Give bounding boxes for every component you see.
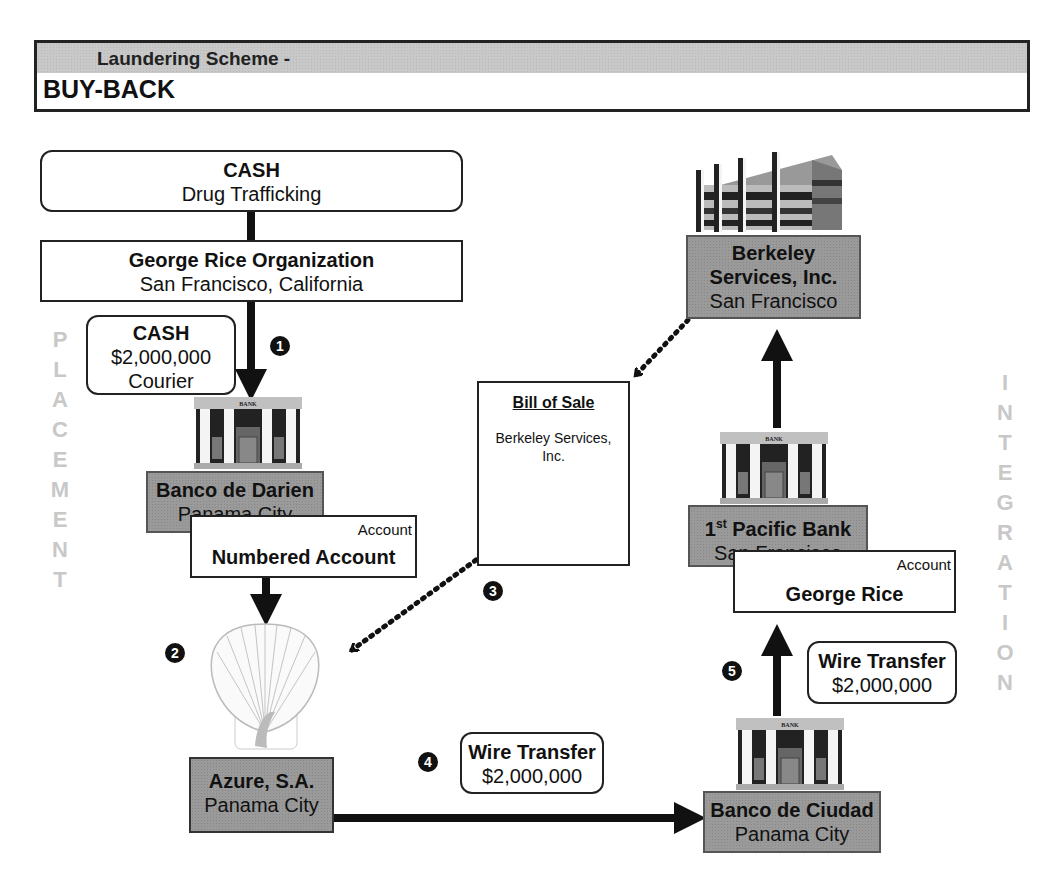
cash-courier-node: CASH $2,000,000 Courier — [86, 315, 236, 395]
step-1-marker: 1 — [270, 336, 290, 356]
svg-text:BANK: BANK — [781, 722, 799, 728]
bank-building-icon: BANK — [736, 718, 844, 790]
step-4-marker: 4 — [418, 752, 438, 772]
berkeley-services-node: Berkeley Services, Inc. San Francisco — [686, 235, 861, 319]
svg-text:BANK: BANK — [765, 436, 783, 442]
svg-text:BANK: BANK — [239, 401, 257, 407]
wire-transfer-5-node: Wire Transfer $2,000,000 — [807, 641, 957, 704]
step-3-marker: 3 — [483, 581, 503, 601]
organization-node: George Rice Organization San Francisco, … — [40, 240, 463, 302]
office-building-icon — [692, 150, 842, 232]
wire-transfer-4-node: Wire Transfer $2,000,000 — [460, 732, 604, 794]
bank-building-icon: BANK — [720, 432, 828, 504]
banco-ciudad-node: Banco de Ciudad Panama City — [703, 791, 881, 853]
shell-icon — [205, 622, 325, 752]
step-5-marker: 5 — [722, 661, 742, 681]
placement-label: P L A C E M E N T — [45, 325, 75, 595]
bill-of-sale-document: Bill of Sale Berkeley Services, Inc. — [477, 381, 630, 566]
cash-source-node: CASH Drug Trafficking — [40, 150, 463, 212]
bank-building-icon: BANK — [194, 397, 302, 469]
step-2-marker: 2 — [165, 643, 185, 663]
azure-node: Azure, S.A. Panama City — [189, 757, 334, 833]
george-rice-account-node: Account George Rice — [733, 550, 956, 613]
numbered-account-node: Account Numbered Account — [190, 515, 417, 578]
integration-label: I N T E G R A T I O N — [990, 368, 1020, 698]
